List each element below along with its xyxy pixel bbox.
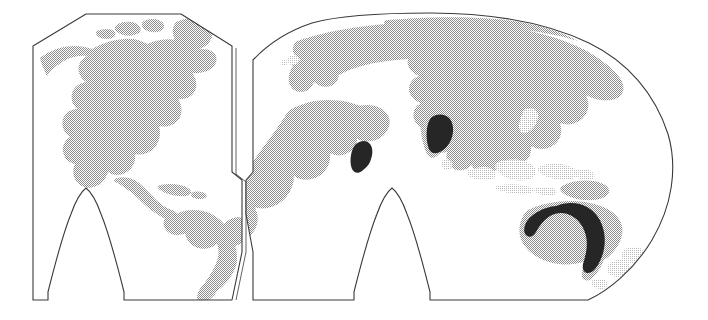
world-distribution-map: World distribution map	[0, 0, 708, 320]
arctic-islands	[96, 19, 164, 39]
north-america	[40, 39, 217, 188]
madagascar	[374, 202, 398, 240]
oldworld-lobe	[204, 13, 673, 300]
americas-land-group	[40, 18, 251, 303]
oldworld-land-group	[204, 17, 643, 289]
map-canvas	[0, 0, 708, 320]
new-guinea	[560, 181, 609, 201]
sri-lanka	[442, 159, 452, 170]
south-america	[164, 210, 251, 303]
americas-lobe	[33, 14, 251, 303]
tasmania	[591, 279, 607, 289]
americas-lobe-seam	[236, 48, 246, 300]
arabia	[349, 105, 390, 141]
